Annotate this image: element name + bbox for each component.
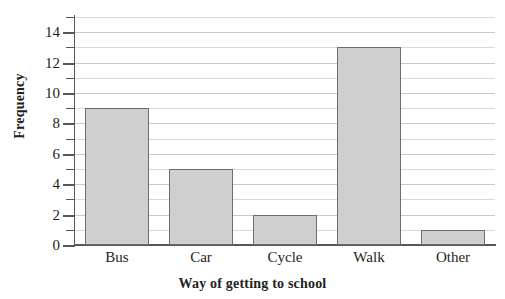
y-axis-tick-major <box>63 123 75 125</box>
y-axis-tick-label: 6 <box>2 147 60 162</box>
y-axis-tick-minor <box>66 47 75 48</box>
x-axis-tick-label: Other <box>411 250 495 265</box>
y-axis-tick-major <box>63 215 75 217</box>
gridline <box>75 93 495 94</box>
y-axis-tick-major <box>63 63 75 65</box>
y-axis-tick-label: 8 <box>2 116 60 131</box>
bar-bus <box>85 108 149 245</box>
x-axis-tick-label: Car <box>159 250 243 265</box>
y-axis-line <box>74 15 75 246</box>
x-axis-tick-label: Walk <box>327 250 411 265</box>
y-axis-tick-label: 12 <box>2 56 60 71</box>
bar-walk <box>337 47 401 245</box>
y-axis-tick-minor <box>66 139 75 140</box>
bar-chart: Frequency 02468101214 Way of getting to … <box>0 0 505 299</box>
y-axis-tick-minor <box>66 78 75 79</box>
bar-car <box>169 169 233 245</box>
y-axis-tick-minor <box>66 17 75 18</box>
y-axis-tick-major <box>63 93 75 95</box>
y-axis-tick-label: 4 <box>2 177 60 192</box>
gridline <box>75 78 495 79</box>
y-axis-tick-label: 0 <box>2 238 60 253</box>
y-axis-tick-major <box>63 245 75 247</box>
x-axis-tick-label: Cycle <box>243 250 327 265</box>
gridline <box>75 17 495 18</box>
bar-other <box>421 230 485 245</box>
y-axis-tick-major <box>63 184 75 186</box>
y-axis-tick-major <box>63 154 75 156</box>
x-axis-title: Way of getting to school <box>0 276 505 292</box>
bar-cycle <box>253 215 317 245</box>
x-axis-tick-label: Bus <box>75 250 159 265</box>
y-axis-tick-label: 2 <box>2 208 60 223</box>
y-axis-tick-major <box>63 32 75 34</box>
y-axis-tick-minor <box>66 169 75 170</box>
y-axis-tick-minor <box>66 199 75 200</box>
y-axis-tick-label: 10 <box>2 86 60 101</box>
y-axis-tick-minor <box>66 230 75 231</box>
gridline <box>75 47 495 48</box>
gridline <box>75 63 495 64</box>
gridline <box>75 32 495 33</box>
y-axis-tick-labels: 02468101214 <box>0 0 60 299</box>
y-axis-tick-minor <box>66 108 75 109</box>
y-axis-tick-label: 14 <box>2 25 60 40</box>
